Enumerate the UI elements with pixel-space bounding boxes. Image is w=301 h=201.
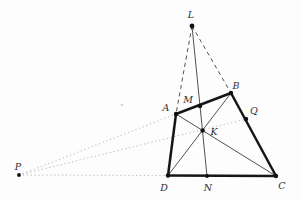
point-K-label: K — [209, 126, 218, 137]
diagram-canvas: LAMBQKPDNC — [0, 0, 301, 201]
point-M-label: M — [182, 94, 193, 105]
point-N-dot — [205, 174, 209, 178]
point-Q-label: Q — [250, 105, 258, 116]
edge-PD-dotted — [19, 175, 168, 176]
point-M-dot — [198, 104, 202, 108]
point-A-label: A — [162, 102, 170, 113]
point-A-dot — [174, 112, 178, 116]
point-Q-dot — [244, 117, 248, 121]
point-N-label: N — [203, 182, 213, 193]
point-B-dot — [229, 91, 233, 95]
edge-CD-bold — [168, 176, 276, 177]
edge-PA-dotted — [19, 114, 176, 175]
point-L-dot — [190, 24, 195, 29]
point-C-label: C — [278, 180, 286, 191]
geometry-figure: LAMBQKPDNC — [0, 0, 301, 201]
point-P-dot — [17, 173, 21, 177]
point-P-label: P — [14, 161, 22, 172]
point-C-dot — [274, 174, 278, 178]
point-D-label: D — [159, 182, 168, 193]
point-D-dot — [166, 173, 170, 177]
point-B-label: B — [232, 80, 240, 91]
stray-mark — [121, 104, 124, 107]
point-L-label: L — [187, 9, 194, 20]
point-K-dot — [200, 128, 204, 132]
